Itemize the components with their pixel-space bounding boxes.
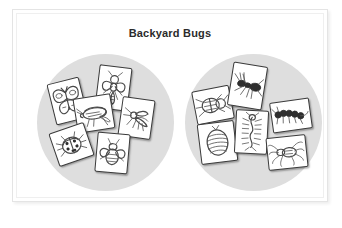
- sorting-circle-right: [185, 54, 322, 191]
- page-title: Backyard Bugs: [13, 27, 327, 39]
- slide-root: Backyard Bugs: [0, 0, 342, 228]
- card-centipede[interactable]: [234, 109, 269, 155]
- bee-icon: [95, 133, 129, 174]
- card-ant[interactable]: [227, 62, 268, 111]
- spider-icon: [266, 135, 307, 170]
- card-caterpillar[interactable]: [269, 97, 313, 133]
- caterpillar-icon: [270, 98, 312, 132]
- sorting-circle-left: [37, 54, 174, 191]
- slide-frame: Backyard Bugs: [12, 9, 328, 202]
- card-pillbug[interactable]: [197, 120, 239, 165]
- ant-icon: [228, 63, 267, 110]
- pillbug-icon: [198, 121, 237, 164]
- mosquito-icon: [119, 97, 155, 139]
- centipede-icon: [235, 110, 268, 154]
- card-bee[interactable]: [94, 132, 130, 175]
- cut-off-caption: [14, 219, 164, 228]
- card-spider[interactable]: [265, 134, 308, 171]
